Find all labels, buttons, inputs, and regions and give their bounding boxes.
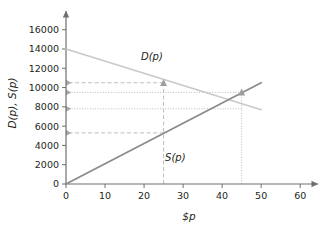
x-tick-label-60: 60: [294, 190, 306, 201]
y-tick-label-8000: 8000: [35, 101, 59, 112]
y-tick-label-16000: 16000: [29, 24, 59, 35]
y-axis-title: D(p), S(p): [6, 77, 18, 128]
y-tick-label-4000: 4000: [35, 140, 59, 151]
y-tick-label-10000: 10000: [29, 82, 59, 93]
x-tick-label-40: 40: [216, 190, 228, 201]
x-tick-label-50: 50: [255, 190, 267, 201]
x-tick-label-10: 10: [99, 190, 111, 201]
guide-lines-group: [66, 83, 242, 184]
y-tick-label-12000: 12000: [29, 63, 59, 74]
y-tick-label-2000: 2000: [35, 159, 59, 170]
chart-canvas: 0200040006000800010000120001400016000010…: [0, 0, 324, 227]
y-tick-label-14000: 14000: [29, 43, 59, 54]
x-tick-label-0: 0: [63, 190, 69, 201]
x-tick-label-20: 20: [138, 190, 150, 201]
y-tick-label-6000: 6000: [35, 121, 59, 132]
series-label-Dp: D(p): [141, 51, 163, 62]
x-axis-title: $p: [182, 210, 196, 222]
x-tick-label-30: 30: [177, 190, 189, 201]
y-tick-label-0: 0: [53, 178, 59, 189]
axes-group: [66, 11, 318, 184]
supply-demand-chart: 0200040006000800010000120001400016000010…: [0, 0, 324, 227]
series-label-Sp: S(p): [165, 152, 186, 163]
